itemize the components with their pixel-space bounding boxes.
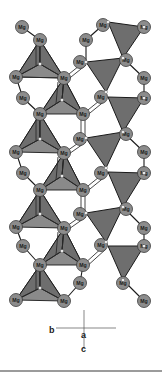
svg-text:Mg: Mg (60, 225, 68, 231)
svg-text:Mg: Mg (79, 262, 87, 268)
mg-atom: Mg (10, 146, 23, 159)
mg-atom: Mg (34, 108, 47, 121)
mg-atom: Mg (138, 72, 151, 85)
mg-atom: Mg (74, 277, 87, 290)
svg-text:Mg: Mg (36, 37, 44, 43)
svg-text:Mg: Mg (97, 94, 105, 100)
svg-text:Mg: Mg (82, 37, 90, 43)
svg-text:Mg: Mg (79, 111, 87, 117)
svg-text:Mg: Mg (140, 298, 148, 304)
svg-text:Mg: Mg (60, 150, 68, 156)
mg-atom: Mg (138, 295, 151, 308)
right-polyhedra (86, 22, 144, 280)
axis-label-a: a (81, 330, 87, 340)
mg-atom: Mg (17, 92, 30, 105)
mg-atom: Mg (58, 295, 71, 308)
svg-text:Mg: Mg (97, 170, 105, 176)
axis-label-b: b (49, 325, 55, 335)
svg-text:Mg: Mg (76, 280, 84, 286)
mg-atom: Mg (10, 71, 23, 84)
svg-text:Mg: Mg (60, 298, 68, 304)
svg-text:Mg: Mg (97, 242, 105, 248)
mg-atom: Mg (17, 167, 30, 180)
mg-atom: Mg (34, 34, 47, 47)
triangle (86, 58, 123, 92)
mg-atom: Mg (120, 128, 133, 141)
mg-atom: Mg (120, 203, 133, 216)
svg-text:Mg: Mg (19, 170, 27, 176)
mg-atom: Mg (77, 259, 90, 272)
svg-text:Mg: Mg (12, 74, 20, 80)
svg-text:Mg: Mg (140, 75, 148, 81)
svg-text:Mg: Mg (36, 262, 44, 268)
svg-text:Mg: Mg (79, 187, 87, 193)
mg-atom: Mg (120, 54, 133, 67)
crystal-structure-diagram: Mg Mg Mg Mg Mg Mg Mg Mg Mg Mg Mg Mg Mg M… (0, 0, 162, 372)
svg-text:Mg: Mg (19, 95, 27, 101)
mg-atom: Mg (80, 34, 93, 47)
mg-atom: Mg (77, 108, 90, 121)
mg-atom: Mg (34, 184, 47, 197)
mg-atom: Mg (58, 147, 71, 160)
svg-text:Mg: Mg (99, 22, 107, 28)
svg-text:Mg: Mg (140, 225, 148, 231)
mg-atom: Mg (138, 222, 151, 235)
mg-atom: Mg (16, 21, 29, 34)
mg-atom: Mg (17, 240, 30, 253)
svg-text:Mg: Mg (12, 224, 20, 230)
mg-atom: Mg (58, 222, 71, 235)
mg-atom: Mg (58, 72, 71, 85)
triangle (86, 207, 123, 242)
svg-text:Mg: Mg (36, 111, 44, 117)
triangle (108, 246, 144, 280)
svg-text:Mg: Mg (12, 297, 20, 303)
mg-atom: Mg (34, 259, 47, 272)
triangle (86, 132, 123, 168)
mg-atom: Mg (10, 221, 23, 234)
svg-text:Mg: Mg (18, 24, 26, 30)
mg-atom: Mg (10, 294, 23, 307)
axis-label-c: c (81, 344, 86, 354)
svg-text:Mg: Mg (76, 136, 84, 142)
svg-text:Mg: Mg (76, 211, 84, 217)
mg-atom: Mg (77, 184, 90, 197)
svg-text:Mg: Mg (76, 59, 84, 65)
axis-indicator: b a c (49, 310, 116, 354)
svg-text:Mg: Mg (19, 243, 27, 249)
svg-text:Mg: Mg (12, 149, 20, 155)
svg-text:Mg: Mg (36, 187, 44, 193)
mg-atom: Mg (138, 146, 151, 159)
svg-text:Mg: Mg (140, 149, 148, 155)
svg-text:Mg: Mg (60, 75, 68, 81)
